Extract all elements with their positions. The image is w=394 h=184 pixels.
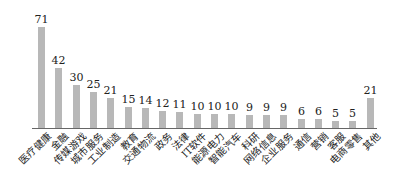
- x-tick-label: 其他: [361, 131, 382, 152]
- bar: [298, 119, 305, 128]
- bar: [159, 111, 166, 128]
- bar: [73, 85, 80, 128]
- data-label: 42: [47, 55, 71, 66]
- bar: [315, 119, 322, 128]
- bar: [332, 121, 339, 128]
- bar: [107, 98, 114, 128]
- bar: [228, 114, 235, 128]
- bar: [142, 108, 149, 128]
- bar: [367, 98, 374, 128]
- bar: [90, 92, 97, 128]
- data-label: 5: [341, 108, 365, 119]
- bar: [194, 114, 201, 128]
- bar: [38, 27, 45, 128]
- bar: [211, 114, 218, 128]
- x-axis-line: [32, 128, 377, 129]
- bar: [125, 107, 132, 128]
- bar: [263, 115, 270, 128]
- bar: [55, 68, 62, 128]
- x-tick-label: 医疗健康: [18, 131, 53, 166]
- data-label: 71: [30, 14, 54, 25]
- bar: [349, 121, 356, 128]
- bar-chart: 71医疗健康42金融30传媒游戏25城市服务21工业制造15教育14交通物流12…: [0, 0, 394, 184]
- bar: [176, 112, 183, 128]
- bar: [280, 115, 287, 128]
- data-label: 21: [359, 85, 383, 96]
- bar: [246, 115, 253, 128]
